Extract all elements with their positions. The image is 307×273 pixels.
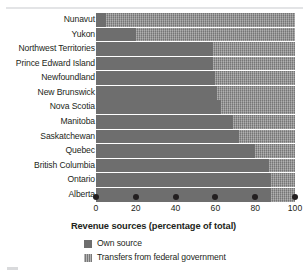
chart-row: New Brunswick [0,86,307,100]
category-label: British Columbia [0,159,95,173]
bar-segment-transfers [255,144,295,158]
x-axis-title: Revenue sources (percentage of total) [0,221,307,231]
axis-tick-dot [93,194,99,200]
legend-label: Own source [97,238,142,249]
chart-row: Newfoundland [0,71,307,85]
chart-row: Nunavut [0,13,307,27]
category-label: Ontario [0,173,95,187]
axis-tick-dot [252,194,258,200]
category-label: Manitoba [0,115,95,129]
stacked-bar [96,86,295,100]
axis-tick-dot [133,194,139,200]
bar-segment-own-source [96,13,106,27]
bar-segment-own-source [96,57,213,71]
chart-legend: Own sourceTransfers from federal governm… [84,237,307,265]
chart-row: Northwest Territories [0,42,307,56]
category-label: Nova Scotia [0,100,95,114]
bar-segment-transfers [269,159,295,173]
bar-segment-own-source [96,71,215,85]
stacked-bar [96,57,295,71]
legend-swatch-own-source [84,240,92,248]
bar-segment-own-source [96,100,221,114]
bar-segment-transfers [221,100,295,114]
stacked-bar [96,115,295,129]
axis-tick-dot [212,194,218,200]
bar-segment-transfers [271,173,295,187]
category-label: New Brunswick [0,86,95,100]
legend-item: Transfers from federal government [84,251,307,264]
bar-segment-own-source [96,28,136,42]
bar-segment-own-source [96,86,217,100]
bar-segment-transfers [215,71,295,85]
stacked-bar [96,159,295,173]
x-axis: 020406080100 [0,194,307,218]
stacked-bar [96,130,295,144]
chart-row: Quebec [0,144,307,158]
bar-segment-transfers [217,86,295,100]
category-label: Yukon [0,28,95,42]
scan-artifact-bottom [7,267,18,270]
stacked-bar [96,13,295,27]
stacked-bar [96,144,295,158]
category-label: Quebec [0,144,95,158]
stacked-bar [96,71,295,85]
bar-segment-transfers [136,28,295,42]
axis-tick-label: 60 [200,203,230,213]
category-label: Saskatchewan [0,130,95,144]
bar-segment-own-source [96,173,271,187]
chart-row: British Columbia [0,159,307,173]
bar-segment-own-source [96,115,233,129]
bar-segment-transfers [213,42,295,56]
chart-row: Ontario [0,173,307,187]
category-label: Newfoundland [0,71,95,85]
axis-tick-dot [292,194,298,200]
bar-segment-transfers [239,130,295,144]
axis-tick-label: 100 [280,203,307,213]
axis-tick-label: 0 [81,203,111,213]
plot-area: NunavutYukonNorthwest TerritoriesPrince … [0,13,307,191]
chart-row: Saskatchewan [0,130,307,144]
category-label: Nunavut [0,13,95,27]
chart-row: Yukon [0,28,307,42]
chart-figure: NunavutYukonNorthwest TerritoriesPrince … [0,0,307,273]
bar-segment-transfers [106,13,295,27]
scan-artifact-top [6,7,303,9]
bar-segment-transfers [233,115,295,129]
legend-swatch-transfers [84,254,92,262]
axis-tick-label: 80 [240,203,270,213]
category-label: Northwest Territories [0,42,95,56]
legend-label: Transfers from federal government [97,252,226,263]
axis-tick-label: 20 [121,203,151,213]
legend-item: Own source [84,237,307,250]
chart-row: Prince Edward Island [0,57,307,71]
stacked-bar [96,42,295,56]
bar-segment-own-source [96,144,255,158]
stacked-bar [96,173,295,187]
chart-row: Nova Scotia [0,100,307,114]
category-label: Prince Edward Island [0,57,95,71]
axis-tick-label: 40 [161,203,191,213]
stacked-bar [96,28,295,42]
stacked-bar [96,100,295,114]
bar-segment-own-source [96,159,269,173]
axis-tick-dot [173,194,179,200]
chart-row: Manitoba [0,115,307,129]
bar-segment-own-source [96,42,213,56]
bar-segment-transfers [213,57,295,71]
bar-segment-own-source [96,130,239,144]
